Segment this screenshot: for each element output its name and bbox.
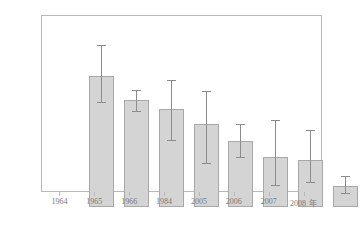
- error-bar-line: [206, 91, 207, 164]
- x-axis-tick-label: 2005: [191, 197, 207, 206]
- bar-group: [228, 32, 253, 207]
- error-bar-cap-upper: [236, 124, 245, 125]
- bar-group: [298, 32, 323, 207]
- bar: [124, 100, 149, 207]
- error-bar-cap-lower: [202, 163, 211, 164]
- x-axis-tick-label: 2008年: [290, 197, 317, 208]
- bar-group: [194, 32, 219, 207]
- error-bar-line: [345, 176, 346, 192]
- error-bar-line: [101, 45, 102, 103]
- x-axis-unit-label: 年: [309, 199, 317, 208]
- error-bar-cap-lower: [97, 102, 106, 103]
- error-bar-cap-lower: [341, 193, 350, 194]
- x-axis-tick-mark: [269, 192, 270, 196]
- bar-group: [333, 32, 358, 207]
- x-axis-tick-mark: [199, 192, 200, 196]
- x-axis-tick-mark: [164, 192, 165, 196]
- x-axis-tick-label: 1966: [121, 197, 137, 206]
- x-axis-tick-label: 1984: [156, 197, 172, 206]
- error-bar-line: [240, 124, 241, 157]
- error-bar-cap-lower: [271, 185, 280, 186]
- bar-series-group: [84, 32, 362, 207]
- x-axis-tick-label: 1965: [86, 197, 102, 206]
- error-bar-cap-upper: [341, 176, 350, 177]
- x-axis-tick-mark: [234, 192, 235, 196]
- plot-area: [41, 15, 322, 192]
- error-bar-cap-upper: [271, 120, 280, 121]
- error-bar-cap-upper: [306, 130, 315, 131]
- bar-group: [263, 32, 288, 207]
- x-axis-tick-mark: [129, 192, 130, 196]
- error-bar-cap-lower: [306, 182, 315, 183]
- error-bar-line: [275, 120, 276, 185]
- x-axis-tick-label: 1964: [51, 197, 67, 206]
- x-axis-tick-mark: [94, 192, 95, 196]
- error-bar-cap-upper: [202, 91, 211, 92]
- x-axis-tick-mark: [304, 192, 305, 196]
- error-bar-cap-upper: [97, 45, 106, 46]
- x-axis-tick-mark: [59, 192, 60, 196]
- error-bar-line: [171, 80, 172, 140]
- bar-group: [124, 32, 149, 207]
- bar-group: [89, 32, 114, 207]
- error-bar-cap-upper: [167, 80, 176, 81]
- error-bar-cap-lower: [167, 140, 176, 141]
- error-bar-cap-lower: [132, 111, 141, 112]
- error-bar-cap-upper: [132, 90, 141, 91]
- error-bar-line: [136, 90, 137, 111]
- error-bar-cap-lower: [236, 157, 245, 158]
- error-bar-line: [310, 130, 311, 182]
- x-axis-tick-label: 2007: [261, 197, 277, 206]
- bar-group: [159, 32, 184, 207]
- x-axis-tick-label: 2006: [226, 197, 242, 206]
